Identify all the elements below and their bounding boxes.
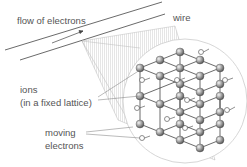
- flow-label: flow of electrons: [17, 15, 86, 26]
- ions-label-line2: (in a fixed lattice): [20, 97, 92, 108]
- wire-label: wire: [173, 12, 190, 23]
- ions-label-line1: ions: [20, 84, 37, 95]
- moving-label-line1: moving: [45, 127, 76, 138]
- moving-label-line2: electrons: [45, 140, 84, 151]
